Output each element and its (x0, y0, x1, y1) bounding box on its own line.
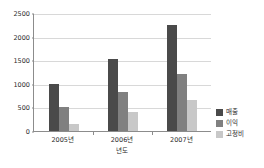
bar (49, 84, 59, 131)
y-tick-mark (32, 14, 34, 15)
bar (128, 112, 138, 131)
y-tick-label: 1000 (13, 82, 30, 89)
bar-chart: 05001000150020002500 2005년2006년2007년 년도 … (0, 0, 264, 168)
legend-item[interactable]: 매출 (216, 109, 244, 116)
x-axis-labels: 2005년2006년2007년 (33, 133, 211, 147)
bar-group (35, 14, 94, 131)
bar (108, 59, 118, 131)
plot-area: 05001000150020002500 (33, 14, 211, 132)
legend-label: 매출 (226, 109, 238, 116)
y-tick-mark (32, 108, 34, 109)
y-tick-label: 1500 (13, 58, 30, 65)
bar (69, 124, 79, 131)
x-axis-label: 2007년 (152, 133, 211, 147)
chart-legend: 매출이익고정비 (216, 109, 244, 138)
x-axis-title: 년도 (33, 148, 211, 155)
x-axis-label: 2006년 (92, 133, 151, 147)
legend-label: 이익 (226, 120, 238, 127)
bar-groups (35, 14, 211, 131)
y-tick-label: 2500 (13, 11, 30, 18)
bar-group (152, 14, 211, 131)
legend-swatch-icon (216, 131, 223, 138)
bar (167, 25, 177, 131)
bar-group (94, 14, 153, 131)
bar (187, 100, 197, 131)
y-tick-mark (32, 61, 34, 62)
legend-swatch-icon (216, 109, 223, 116)
bar (177, 74, 187, 131)
legend-label: 고정비 (226, 131, 244, 138)
x-axis-label: 2005년 (33, 133, 92, 147)
y-tick-label: 500 (18, 105, 30, 112)
y-tick-label: 0 (26, 129, 30, 136)
legend-swatch-icon (216, 120, 223, 127)
legend-item[interactable]: 고정비 (216, 131, 244, 138)
legend-item[interactable]: 이익 (216, 120, 244, 127)
y-tick-label: 2000 (13, 34, 30, 41)
y-tick-mark (32, 84, 34, 85)
bar (118, 92, 128, 131)
bar (59, 107, 69, 131)
y-tick-mark (32, 37, 34, 38)
